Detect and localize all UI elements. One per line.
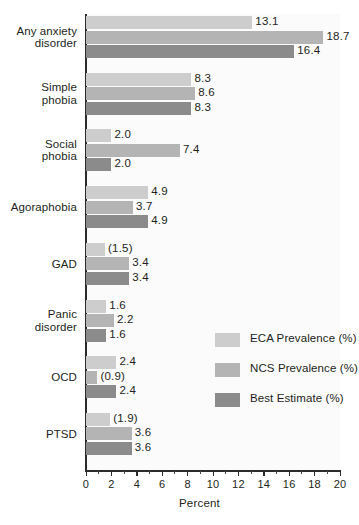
- bar-eca: [86, 413, 110, 426]
- legend-label: NCS Prevalence (%): [250, 362, 358, 374]
- bar-ncs: [86, 371, 97, 384]
- category-label-line: Agoraphobia: [0, 201, 77, 214]
- category-label-line: Social: [0, 138, 77, 151]
- x-tick-label-0: 0: [74, 478, 98, 490]
- bar-best: [86, 272, 129, 285]
- legend-swatch-icon: [215, 333, 240, 347]
- legend-label: Best Estimate (%): [250, 392, 344, 404]
- x-tick-16: [289, 471, 290, 476]
- category-label-simple-phobia: Simplephobia: [0, 81, 77, 106]
- bar-value-label: 16.4: [294, 44, 320, 56]
- x-tick-label-20: 20: [328, 478, 352, 490]
- bar-best: [86, 329, 106, 342]
- bar-value-label: 1.6: [106, 328, 126, 340]
- category-label-any-anxiety-disorder: Any anxietydisorder: [0, 25, 77, 50]
- x-tick-minor-9: [200, 471, 201, 474]
- category-label-line: Any anxiety: [0, 25, 77, 38]
- category-label-line: phobia: [0, 150, 77, 163]
- bar-ncs: [86, 201, 133, 214]
- x-tick-minor-15: [276, 471, 277, 474]
- bar-value-label: 2.0: [111, 157, 131, 169]
- x-tick-8: [187, 471, 188, 476]
- x-axis-title: Percent: [0, 497, 359, 509]
- bar-best: [86, 45, 294, 58]
- bar-best: [86, 215, 148, 228]
- x-tick-minor-11: [225, 471, 226, 474]
- x-tick-minor-5: [149, 471, 150, 474]
- bar-value-label: 4.9: [148, 185, 168, 197]
- category-label-line: phobia: [0, 94, 77, 107]
- category-label-social-phobia: Socialphobia: [0, 138, 77, 163]
- x-tick-10: [213, 471, 214, 476]
- bar-value-label: (1.5): [105, 242, 133, 254]
- x-tick-label-6: 6: [150, 478, 174, 490]
- x-tick-label-2: 2: [99, 478, 123, 490]
- category-label-agoraphobia: Agoraphobia: [0, 201, 77, 214]
- bar-ncs: [86, 314, 114, 327]
- category-label-line: PTSD: [0, 428, 77, 441]
- bar-best: [86, 158, 111, 171]
- x-tick-minor-7: [174, 471, 175, 474]
- x-tick-minor-1: [98, 471, 99, 474]
- category-label-line: GAD: [0, 258, 77, 271]
- bar-value-label: 3.7: [133, 200, 153, 212]
- bar-value-label: (1.9): [110, 412, 138, 424]
- bar-value-label: 13.1: [252, 15, 278, 27]
- bar-value-label: 8.3: [191, 101, 211, 113]
- bar-value-label: 3.4: [129, 256, 149, 268]
- x-tick-label-12: 12: [226, 478, 250, 490]
- bar-value-label: 3.4: [129, 271, 149, 283]
- category-label-line: Panic: [0, 308, 77, 321]
- bar-ncs: [86, 31, 323, 44]
- bar-eca: [86, 129, 111, 142]
- bar-value-label: 3.6: [132, 441, 152, 453]
- bar-eca: [86, 356, 116, 369]
- category-label-line: disorder: [0, 37, 77, 50]
- x-tick-20: [340, 471, 341, 476]
- bar-value-label: 18.7: [323, 30, 349, 42]
- bar-value-label: 2.2: [114, 313, 134, 325]
- x-tick-6: [162, 471, 163, 476]
- bar-best: [86, 385, 116, 398]
- bar-eca: [86, 300, 106, 313]
- category-label-ptsd: PTSD: [0, 428, 77, 441]
- x-tick-4: [136, 471, 137, 476]
- x-tick-minor-3: [124, 471, 125, 474]
- bar-value-label: 2.4: [116, 384, 136, 396]
- bar-eca: [86, 243, 105, 256]
- category-label-ocd: OCD: [0, 371, 77, 384]
- x-tick-label-14: 14: [252, 478, 276, 490]
- bar-ncs: [86, 427, 132, 440]
- x-tick-2: [111, 471, 112, 476]
- bar-value-label: (0.9): [97, 370, 125, 382]
- bar-value-label: 3.6: [132, 426, 152, 438]
- bar-ncs: [86, 144, 180, 157]
- legend-swatch-icon: [215, 393, 240, 407]
- bar-value-label: 4.9: [148, 214, 168, 226]
- x-tick-12: [238, 471, 239, 476]
- bar-value-label: 1.6: [106, 299, 126, 311]
- x-tick-label-10: 10: [201, 478, 225, 490]
- legend-label: ECA Prevalence (%): [250, 332, 357, 344]
- bar-eca: [86, 16, 252, 29]
- x-tick-label-18: 18: [303, 478, 327, 490]
- category-label-line: OCD: [0, 371, 77, 384]
- bar-value-label: 2.4: [116, 355, 136, 367]
- bar-value-label: 8.3: [191, 72, 211, 84]
- x-tick-minor-19: [327, 471, 328, 474]
- category-label-line: Simple: [0, 81, 77, 94]
- bar-eca: [86, 73, 191, 86]
- x-tick-14: [263, 471, 264, 476]
- x-tick-0: [86, 471, 87, 476]
- bar-ncs: [86, 257, 129, 270]
- x-tick-minor-17: [301, 471, 302, 474]
- category-label-panic-disorder: Panicdisorder: [0, 308, 77, 333]
- bar-best: [86, 102, 191, 115]
- category-label-gad: GAD: [0, 258, 77, 271]
- x-tick-18: [314, 471, 315, 476]
- x-tick-minor-13: [251, 471, 252, 474]
- bar-ncs: [86, 87, 195, 100]
- chart-container: 02468101214161820 13.118.716.48.38.68.32…: [0, 0, 359, 525]
- bar-best: [86, 442, 132, 455]
- bar-value-label: 7.4: [180, 143, 200, 155]
